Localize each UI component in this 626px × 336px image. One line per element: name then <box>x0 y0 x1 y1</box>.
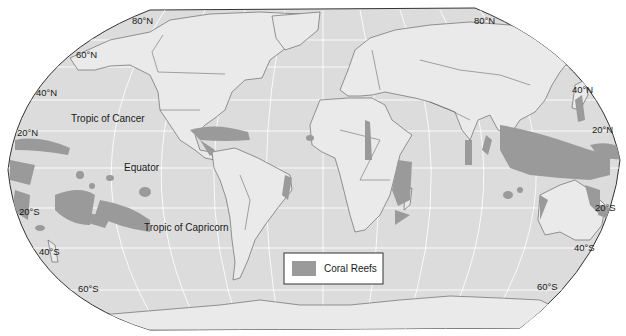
lat-label-20n-right: 20°N <box>592 124 613 135</box>
lat-label-80n-left: 80°N <box>132 15 153 26</box>
lat-label-20n-left: 20°N <box>17 127 38 138</box>
lat-label-60s-right: 60°S <box>537 281 558 292</box>
lat-label-40s-left: 40°S <box>39 246 60 257</box>
lat-label-60s-left: 60°S <box>78 283 99 294</box>
world-map: 80°N 60°N 40°N 20°N 20°S 40°S 60°S 80°N … <box>0 0 626 336</box>
lat-label-80n-right: 80°N <box>474 15 495 26</box>
tropic-of-capricorn-label: Tropic of Capricorn <box>144 222 229 233</box>
lat-label-20s-right: 20°S <box>595 202 616 213</box>
lat-label-60n-left: 60°N <box>76 49 97 60</box>
lat-label-20s-left: 20°S <box>19 206 40 217</box>
legend: Coral Reefs <box>284 253 383 284</box>
lat-label-40n-left: 40°N <box>36 87 57 98</box>
legend-label-coral-reefs: Coral Reefs <box>324 263 377 274</box>
lat-label-40s-right: 40°S <box>574 242 595 253</box>
lat-label-40n-right: 40°N <box>572 84 593 95</box>
equator-label: Equator <box>124 162 160 173</box>
tropic-of-cancer-label: Tropic of Cancer <box>71 113 145 124</box>
legend-swatch-coral-reefs <box>292 261 316 276</box>
